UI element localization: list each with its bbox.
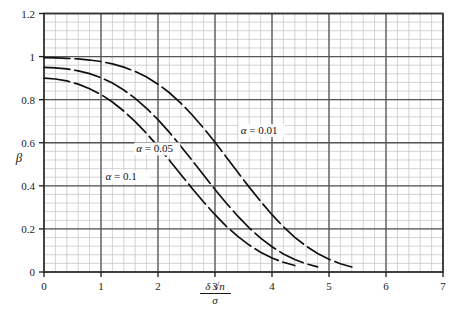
curve-label-1: α = 0.05 bbox=[136, 142, 173, 154]
x-tick-label: 1 bbox=[98, 280, 104, 292]
x-tick-label: 6 bbox=[383, 280, 389, 292]
x-tick-label: 5 bbox=[326, 280, 332, 292]
y-tick-label: 1 bbox=[30, 51, 36, 63]
y-tick-label: 0.4 bbox=[21, 180, 35, 192]
x-tick-label: 7 bbox=[440, 280, 446, 292]
y-tick-label: 0.2 bbox=[21, 223, 35, 235]
y-tick-label: 0.6 bbox=[21, 137, 35, 149]
x-axis-title-numerator: δ √n bbox=[205, 280, 225, 292]
x-tick-label: 0 bbox=[41, 280, 47, 292]
curve-label-0: α = 0.01 bbox=[241, 124, 278, 136]
y-tick-label: 0 bbox=[30, 266, 36, 278]
y-axis-title-text: β bbox=[15, 150, 23, 165]
chart-page: 01234567 00.20.40.60.811.2 β δ √n σ α = … bbox=[0, 0, 460, 310]
operating-characteristic-chart: 01234567 00.20.40.60.811.2 β δ √n σ α = … bbox=[0, 0, 460, 310]
x-tick-label: 4 bbox=[269, 280, 275, 292]
y-tick-label: 0.8 bbox=[21, 94, 35, 106]
curve-label-2: α = 0.1 bbox=[106, 170, 137, 182]
x-tick-label: 2 bbox=[155, 280, 161, 292]
x-axis-title-denominator: σ bbox=[212, 294, 218, 306]
y-tick-label: 1.2 bbox=[21, 8, 35, 20]
y-axis-title: β bbox=[15, 150, 23, 165]
